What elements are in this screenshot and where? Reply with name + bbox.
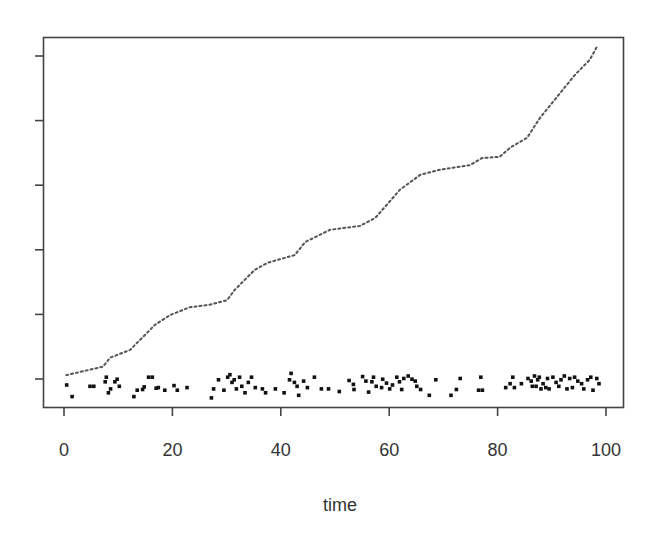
event-point [288,378,292,382]
x-tick-label: 100 [591,440,621,460]
event-point [250,375,254,379]
event-point [297,394,301,398]
event-point [163,388,167,392]
event-point [568,377,572,381]
event-point [504,386,508,390]
event-point [547,387,551,391]
event-point [243,391,247,395]
event-point [541,382,545,386]
x-tick-label: 60 [379,440,399,460]
x-tick-label: 20 [162,440,182,460]
event-point [508,382,512,386]
event-point [402,377,406,381]
event-point [157,386,161,390]
event-point [406,374,410,378]
event-point [413,379,417,383]
event-point [526,377,530,381]
event-point [513,386,517,390]
event-point [254,386,258,390]
event-point [70,395,74,399]
event-point [92,385,96,389]
event-point [238,375,242,379]
event-point [293,381,297,385]
event-point [479,375,483,379]
event-point [228,373,232,377]
event-point [370,380,374,384]
event-point [529,379,533,383]
event-point [539,387,543,391]
event-point [546,377,550,381]
event-point [222,388,226,392]
event-point [347,379,351,383]
event-point [533,374,537,378]
x-tick-label: 40 [271,440,291,460]
event-point [381,377,385,381]
event-point [455,388,459,392]
event-point [364,379,368,383]
event-point [449,394,453,398]
event-point [551,375,555,379]
event-point [481,388,485,392]
x-axis-title: time [323,495,357,515]
event-point [531,385,535,389]
event-point [458,377,462,381]
event-point [597,382,601,386]
event-point [320,387,324,391]
event-point [327,387,331,391]
event-point [385,381,389,385]
event-point [391,383,395,387]
event-point [573,375,577,379]
event-point [212,387,216,391]
event-point [105,375,109,379]
event-point [247,381,251,385]
event-point [302,379,306,383]
event-point [103,380,107,384]
event-point [428,394,432,398]
event-point [210,396,214,400]
event-point [313,375,317,379]
x-tick-label: 80 [488,440,508,460]
event-point [107,391,111,395]
event-point [589,375,593,379]
event-point [352,383,356,387]
event-point [586,378,590,382]
event-point [538,375,542,379]
event-point [88,385,92,389]
event-point [559,378,563,382]
event-point [591,388,595,392]
x-axis-ticks [64,408,606,417]
event-point [172,384,176,388]
event-point [274,387,278,391]
event-point [534,385,538,389]
event-point [185,386,189,390]
y-axis-ticks [35,56,44,379]
event-point [410,377,414,381]
x-tick-label: 0 [59,440,69,460]
cumulative-dotted-line [66,47,597,375]
event-point [367,390,371,394]
event-point [563,374,567,378]
event-point [135,388,139,392]
plot-frame [44,38,624,408]
event-point [282,391,286,395]
event-point [434,378,438,382]
event-point [374,385,378,389]
event-point [264,391,268,395]
event-point [147,375,151,379]
event-point [306,386,310,390]
event-point [295,385,299,389]
chart: 020406080100 time [0,0,658,537]
event-point [565,387,569,391]
event-point [400,388,404,392]
event-point [571,386,575,390]
event-point [398,380,402,384]
event-point [595,377,599,381]
x-axis-tick-labels: 020406080100 [59,440,621,460]
event-point [289,372,293,376]
event-point [338,390,342,394]
event-point [261,387,265,391]
event-point [240,385,244,389]
event-point [419,388,423,392]
event-point [352,388,356,392]
event-points [65,372,601,400]
